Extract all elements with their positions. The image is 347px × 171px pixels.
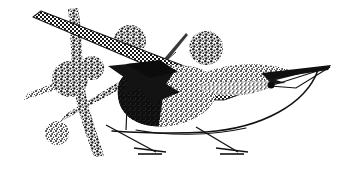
artwork-svg — [0, 0, 347, 171]
blob-lower-left — [45, 121, 69, 145]
eye-icon — [267, 81, 274, 88]
illustration-canvas: Abstract halftone bird on branch — [0, 0, 347, 171]
blob-upper-right — [189, 31, 223, 65]
blob-mid-stem — [80, 56, 104, 80]
